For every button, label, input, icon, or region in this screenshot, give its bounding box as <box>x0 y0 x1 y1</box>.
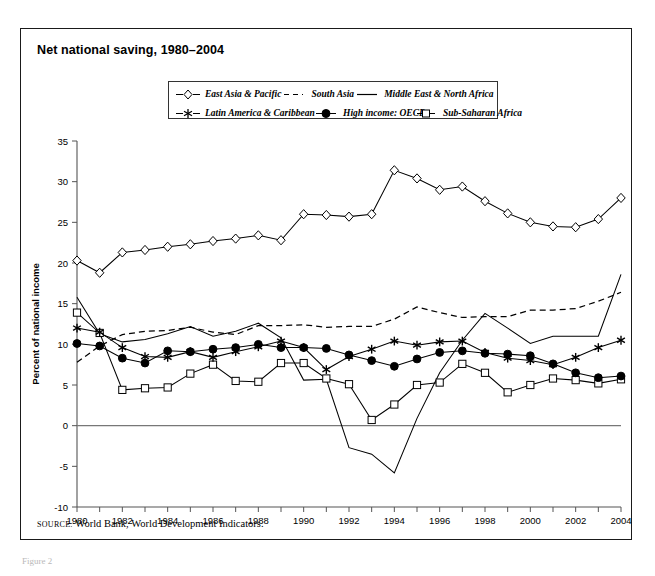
y-tick-label: 20 <box>57 258 68 269</box>
diamond-open-marker <box>413 174 421 183</box>
series-middle-east-north-africa <box>77 274 621 472</box>
square-open-marker <box>323 375 330 382</box>
diamond-open-marker <box>209 236 217 245</box>
square-open-marker <box>368 416 375 423</box>
circle-filled-marker <box>345 351 353 359</box>
square-open-marker <box>164 384 171 391</box>
square-open-marker <box>141 385 148 392</box>
diamond-open-marker <box>435 185 443 194</box>
diamond-open-marker <box>163 242 171 251</box>
square-open-marker <box>277 359 284 366</box>
diamond-open-marker <box>345 212 353 221</box>
circle-filled-marker <box>164 347 172 355</box>
y-tick-label: 5 <box>63 380 68 391</box>
circle-filled-marker <box>572 369 580 377</box>
square-open-marker <box>73 309 80 316</box>
square-open-marker <box>209 361 216 368</box>
square-open-marker <box>436 379 443 386</box>
circle-filled-marker <box>413 355 421 363</box>
circle-filled-marker <box>232 344 240 352</box>
source-note: SOURCE: World Bank, World Development In… <box>37 518 264 529</box>
diamond-open-marker <box>571 223 579 232</box>
series-line <box>77 274 621 472</box>
x-tick-label: 1994 <box>384 515 405 526</box>
square-open-marker <box>119 386 126 393</box>
circle-filled-marker <box>458 347 466 355</box>
square-open-marker <box>300 359 307 366</box>
asterisk-marker <box>118 343 126 352</box>
circle-filled-marker <box>368 357 376 365</box>
square-open-marker <box>255 378 262 385</box>
series-line <box>77 313 621 420</box>
square-open-marker <box>232 377 239 384</box>
circle-filled-marker <box>322 345 330 353</box>
x-tick-label: 2004 <box>610 515 631 526</box>
diamond-open-marker <box>322 210 330 219</box>
x-tick-label: 2002 <box>565 515 586 526</box>
y-tick-label: -10 <box>54 502 68 513</box>
circle-filled-marker <box>73 340 81 348</box>
x-tick-label: 1992 <box>338 515 359 526</box>
diamond-open-marker <box>141 245 149 254</box>
figure-frame: Net national saving, 1980–2004 East Asia… <box>20 28 632 540</box>
figure-caption: Figure 2 <box>22 556 52 566</box>
x-tick-label: 1998 <box>474 515 495 526</box>
diamond-open-marker <box>503 209 511 218</box>
series-latin-america-caribbean <box>73 324 625 374</box>
asterisk-marker <box>368 345 376 354</box>
square-open-marker <box>187 370 194 377</box>
circle-filled-marker <box>594 374 602 382</box>
square-open-marker <box>527 381 534 388</box>
x-tick-label: 1990 <box>293 515 314 526</box>
series-line <box>77 328 621 369</box>
series-east-asia-pacific <box>73 166 625 278</box>
square-open-marker <box>459 360 466 367</box>
diamond-open-marker <box>186 240 194 249</box>
y-tick-label: 10 <box>57 339 68 350</box>
x-tick-label: 1996 <box>429 515 450 526</box>
circle-filled-marker <box>141 359 149 367</box>
y-tick-label: 0 <box>63 420 68 431</box>
square-open-marker <box>572 377 579 384</box>
square-open-marker <box>481 369 488 376</box>
diamond-open-marker <box>458 182 466 191</box>
circle-filled-marker <box>186 348 194 356</box>
diamond-open-marker <box>231 234 239 243</box>
y-tick-label: -5 <box>60 461 68 472</box>
chart-plot-area: -10-505101520253035198019821984198619881… <box>21 29 633 541</box>
source-text: World Bank, World Development Indicators… <box>73 518 264 529</box>
asterisk-marker <box>617 336 625 345</box>
y-tick-label: 30 <box>57 176 68 187</box>
square-open-marker <box>413 381 420 388</box>
y-axis-label: Percent of national income <box>30 263 41 384</box>
diamond-open-marker <box>549 222 557 231</box>
diamond-open-marker <box>254 231 262 240</box>
diamond-open-marker <box>481 197 489 206</box>
circle-filled-marker <box>526 352 534 360</box>
square-open-marker <box>345 381 352 388</box>
x-tick-label: 2000 <box>520 515 541 526</box>
square-open-marker <box>504 389 511 396</box>
asterisk-marker <box>209 353 217 362</box>
circle-filled-marker <box>390 362 398 370</box>
circle-filled-marker <box>481 349 489 357</box>
asterisk-marker <box>572 353 580 362</box>
circle-filled-marker <box>549 360 557 368</box>
diamond-open-marker <box>390 166 398 175</box>
diamond-open-marker <box>367 210 375 219</box>
circle-filled-marker <box>300 344 308 352</box>
asterisk-marker <box>594 343 602 352</box>
circle-filled-marker <box>277 344 285 352</box>
source-keyword: SOURCE: <box>37 520 73 529</box>
circle-filled-marker <box>118 354 126 362</box>
square-open-marker <box>549 375 556 382</box>
circle-filled-marker <box>209 345 217 353</box>
circle-filled-marker <box>254 340 262 348</box>
y-tick-label: 15 <box>57 298 68 309</box>
y-tick-label: 25 <box>57 217 68 228</box>
y-tick-label: 35 <box>57 136 68 147</box>
diamond-open-marker <box>526 218 534 227</box>
circle-filled-marker <box>617 372 625 380</box>
square-open-marker <box>391 401 398 408</box>
circle-filled-marker <box>96 342 104 350</box>
